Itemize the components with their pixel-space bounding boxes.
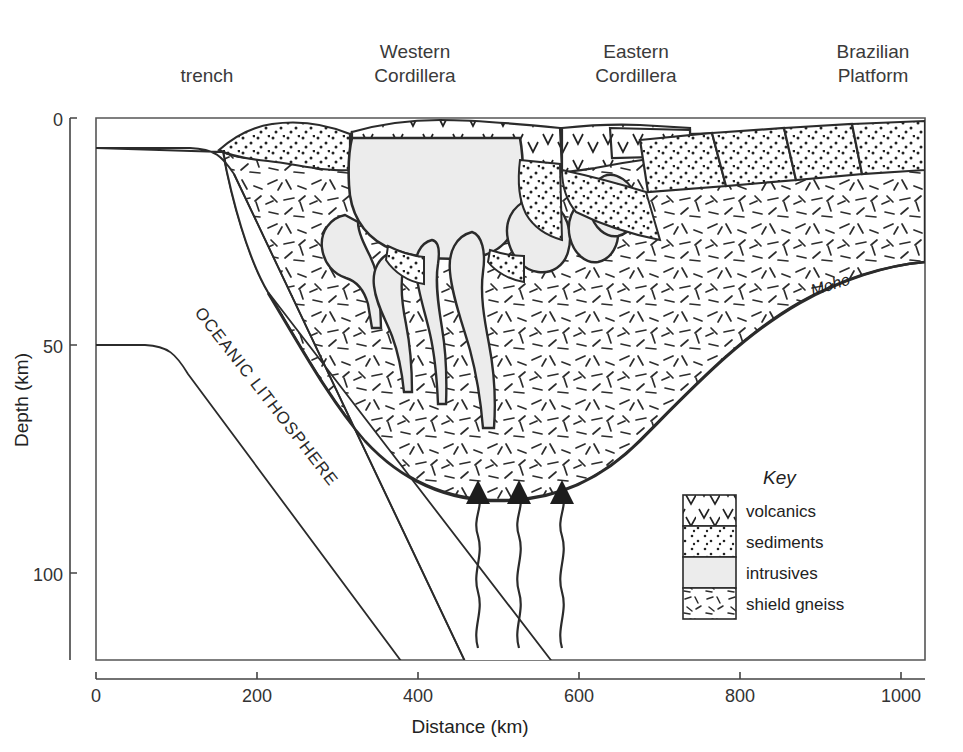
legend-label-shield-gneiss: shield gneiss bbox=[746, 595, 844, 614]
label-brazilian-platform-line1: Brazilian bbox=[837, 41, 910, 62]
y-tick-50: 50 bbox=[43, 337, 63, 357]
x-tick-800: 800 bbox=[725, 686, 755, 706]
y-axis-ticks: 0 50 100 bbox=[33, 110, 63, 585]
x-tick-1000: 1000 bbox=[881, 686, 921, 706]
x-tick-400: 400 bbox=[403, 686, 433, 706]
surface-labels: trench Western Cordillera Eastern Cordil… bbox=[181, 41, 910, 86]
x-axis bbox=[96, 672, 925, 679]
legend-title: Key bbox=[763, 467, 797, 488]
y-axis-title: Depth (km) bbox=[11, 353, 32, 447]
fault-block-4 bbox=[852, 121, 925, 174]
y-axis-title-text: Depth (km) bbox=[11, 353, 32, 447]
magma-wavy-tail-3 bbox=[560, 496, 563, 648]
legend-label-intrusives: intrusives bbox=[746, 564, 818, 583]
legend-label-sediments: sediments bbox=[746, 533, 823, 552]
legend-swatch-sediments bbox=[683, 526, 736, 557]
legend-label-volcanics: volcanics bbox=[746, 502, 816, 521]
x-tick-600: 600 bbox=[564, 686, 594, 706]
label-trench: trench bbox=[181, 65, 234, 86]
legend: Key volcanics sediments intrusives shiel… bbox=[683, 467, 844, 619]
x-tick-200: 200 bbox=[242, 686, 272, 706]
legend-swatch-intrusives bbox=[683, 557, 736, 588]
fault-block-1 bbox=[640, 133, 726, 192]
label-eastern-cordillera-line2: Cordillera bbox=[595, 65, 677, 86]
label-brazilian-platform-line2: Platform bbox=[838, 65, 909, 86]
y-tick-100: 100 bbox=[33, 565, 63, 585]
figure-canvas: trench Western Cordillera Eastern Cordil… bbox=[0, 0, 963, 752]
x-axis-title-text: Distance (km) bbox=[411, 716, 528, 737]
fault-block-3 bbox=[784, 124, 862, 180]
y-tick-0: 0 bbox=[53, 110, 63, 130]
legend-swatch-volcanics bbox=[683, 495, 736, 526]
cross-section-svg: trench Western Cordillera Eastern Cordil… bbox=[0, 0, 963, 752]
fault-block-2 bbox=[712, 128, 796, 186]
label-western-cordillera-line2: Cordillera bbox=[374, 65, 456, 86]
x-axis-ticks: 0 200 400 600 800 1000 bbox=[91, 686, 921, 706]
label-eastern-cordillera-line1: Eastern bbox=[603, 41, 668, 62]
x-tick-0: 0 bbox=[91, 686, 101, 706]
legend-swatch-shield-gneiss bbox=[683, 588, 736, 619]
y-axis bbox=[70, 118, 77, 660]
label-western-cordillera-line1: Western bbox=[380, 41, 450, 62]
